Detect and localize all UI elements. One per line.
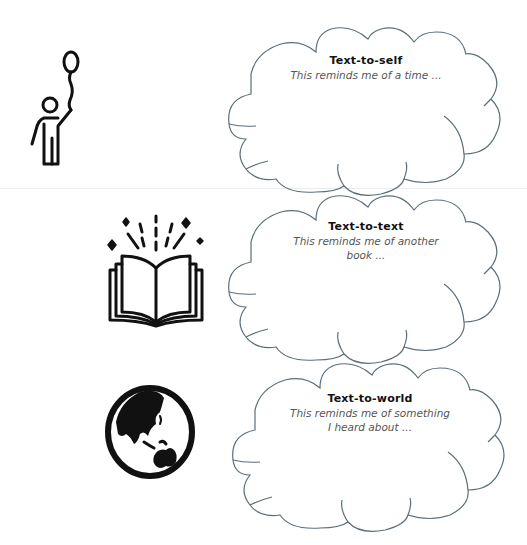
cloud-prompt-line: This reminds me of something [270, 406, 470, 420]
cloud-title: Text-to-self [266, 54, 466, 68]
person-with-balloon-icon [28, 48, 88, 168]
cloud-prompt-line: book ... [266, 248, 466, 262]
thought-cloud-self: Text-to-self This reminds me of a time .… [226, 14, 506, 194]
cloud-prompt-line: This reminds me of another [266, 234, 466, 248]
cloud-prompt-line: I heard about ... [270, 420, 470, 434]
thought-cloud-text: Text-to-text This reminds me of another … [226, 182, 506, 362]
cloud-title: Text-to-text [266, 220, 466, 234]
cloud-title: Text-to-world [270, 392, 470, 406]
cloud-text-text: Text-to-text This reminds me of another … [266, 220, 466, 262]
cloud-text-world: Text-to-world This reminds me of somethi… [270, 392, 470, 434]
thought-cloud-world: Text-to-world This reminds me of somethi… [230, 350, 510, 530]
open-book-icon [104, 214, 208, 328]
globe-icon [104, 384, 196, 480]
cloud-text-self: Text-to-self This reminds me of a time .… [266, 54, 466, 82]
cloud-prompt-line: This reminds me of a time ... [266, 68, 466, 82]
